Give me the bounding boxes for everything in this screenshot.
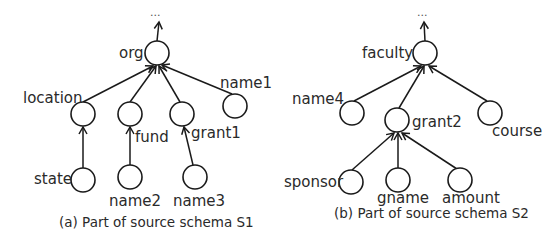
edge-amount-grant2 [402,133,457,169]
schema-diagrams: ... org location fund grant1 name1 state… [0,0,560,239]
edge-org-up [157,22,159,41]
edge-sponsor-grant2 [352,133,394,170]
label-grant1: grant1 [191,124,241,142]
node-name3 [183,165,207,189]
schema-s2: ... faculty name4 grant2 course sponsor … [284,6,542,221]
ellipsis-s1: ... [150,6,161,19]
label-name1: name1 [220,74,272,92]
ellipsis-s2: ... [417,6,428,19]
node-state [71,168,95,192]
edge-name4-faculty [354,66,421,101]
edge-course-faculty [429,66,487,101]
caption-s1: (a) Part of source schema S1 [59,214,254,230]
label-name3: name3 [173,192,225,210]
label-name4: name4 [292,90,344,108]
node-org [145,41,169,65]
node-name2 [118,165,142,189]
label-course: course [492,122,542,140]
schema-s1: ... org location fund grant1 name1 state… [23,6,272,230]
node-grant2 [385,108,409,132]
label-fund: fund [135,128,169,146]
label-sponsor: sponsor [284,173,344,191]
label-location: location [23,89,83,107]
node-grant1 [170,102,194,126]
node-name1 [223,94,247,118]
label-name2: name2 [109,192,161,210]
label-state: state [34,170,72,188]
label-grant2: grant2 [412,113,462,131]
label-org: org [119,44,144,62]
label-faculty: faculty [362,44,413,62]
node-faculty [413,41,437,65]
edge-faculty-up [424,22,425,41]
node-fund [118,102,142,126]
caption-s2: (b) Part of source schema S2 [334,205,529,221]
edge-grant2-faculty [399,66,424,108]
